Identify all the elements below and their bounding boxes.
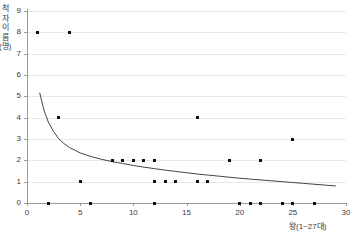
gridline-y-2 (27, 160, 346, 161)
x-tick-label-30: 30 (336, 209, 355, 217)
x-tick-label-15: 15 (177, 209, 197, 217)
y-tick-mark-2 (24, 160, 27, 161)
gridline-y-3 (27, 139, 346, 140)
y-tick-mark-3 (24, 139, 27, 140)
data-point (153, 159, 156, 162)
data-point (313, 202, 316, 205)
x-tick-label-0: 0 (17, 209, 37, 217)
y-tick-mark-8 (24, 32, 27, 33)
data-point (121, 159, 124, 162)
x-tick-label-25: 25 (283, 209, 303, 217)
gridline-y-7 (27, 54, 346, 55)
data-point (249, 202, 252, 205)
data-point (206, 180, 209, 183)
gridline-y-1 (27, 182, 346, 183)
y-tick-mark-1 (24, 182, 27, 183)
x-tick-mark-30 (346, 203, 347, 206)
data-point (164, 180, 167, 183)
data-point (174, 180, 177, 183)
y-tick-label-3: 3 (3, 135, 21, 143)
y-tick-label-6: 6 (3, 71, 21, 79)
data-point (153, 180, 156, 183)
data-point (228, 159, 231, 162)
plot-area (27, 11, 346, 203)
data-point (111, 159, 114, 162)
x-tick-mark-0 (27, 203, 28, 206)
y-tick-label-1: 1 (3, 178, 21, 186)
x-tick-label-10: 10 (123, 209, 143, 217)
y-tick-mark-4 (24, 118, 27, 119)
data-point (57, 116, 60, 119)
gridline-y-8 (27, 32, 346, 33)
data-point (259, 159, 262, 162)
data-point (47, 202, 50, 205)
y-tick-mark-9 (24, 11, 27, 12)
y-axis-title: 척자 이름(명) (0, 4, 11, 52)
data-point (79, 180, 82, 183)
y-tick-label-5: 5 (3, 92, 21, 100)
data-point (259, 202, 262, 205)
y-tick-label-0: 0 (3, 199, 21, 207)
y-tick-label-4: 4 (3, 114, 21, 122)
gridline-y-6 (27, 75, 346, 76)
data-point (238, 202, 241, 205)
gridline-y-5 (27, 96, 346, 97)
gridline-y-9 (27, 11, 346, 12)
data-point (142, 159, 145, 162)
y-tick-mark-7 (24, 54, 27, 55)
y-tick-mark-5 (24, 96, 27, 97)
x-tick-label-20: 20 (230, 209, 250, 217)
data-point (281, 202, 284, 205)
y-tick-mark-6 (24, 75, 27, 76)
y-tick-label-2: 2 (3, 156, 21, 164)
gridline-y-4 (27, 118, 346, 119)
y-axis-line (27, 9, 28, 205)
data-point (153, 202, 156, 205)
x-tick-label-5: 5 (70, 209, 90, 217)
data-point (132, 159, 135, 162)
data-point (36, 31, 39, 34)
data-point (196, 116, 199, 119)
x-axis-title: 왕(1~27대) (289, 223, 326, 231)
data-point (196, 180, 199, 183)
x-tick-mark-10 (133, 203, 134, 206)
data-point (291, 202, 294, 205)
x-tick-mark-15 (187, 203, 188, 206)
data-point (89, 202, 92, 205)
data-point (68, 31, 71, 34)
data-point (291, 138, 294, 141)
x-tick-mark-5 (80, 203, 81, 206)
